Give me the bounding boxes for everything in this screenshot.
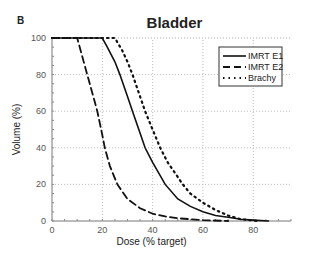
plot-area: 020406080100020406080Dose (% target)Volu…	[0, 0, 309, 258]
y-tick-label: 40	[36, 143, 46, 153]
x-tick-label: 60	[198, 225, 208, 235]
legend-label: Brachy	[248, 73, 277, 83]
y-tick-label: 0	[41, 216, 46, 226]
x-tick-label: 80	[248, 225, 258, 235]
y-tick-label: 100	[31, 33, 46, 43]
x-tick-label: 40	[148, 225, 158, 235]
x-tick-label: 20	[97, 225, 107, 235]
y-tick-label: 20	[36, 179, 46, 189]
x-axis-label: Dose (% target)	[116, 236, 186, 247]
y-axis-label: Volume (%)	[11, 104, 22, 156]
series-line-imrt-e2	[52, 38, 228, 221]
x-tick-label: 0	[49, 225, 54, 235]
y-tick-label: 80	[36, 70, 46, 80]
legend-label: IMRT E1	[248, 51, 283, 61]
y-tick-label: 60	[36, 106, 46, 116]
legend-label: IMRT E2	[248, 62, 283, 72]
chart-figure: B Bladder 020406080100020406080Dose (% t…	[0, 0, 309, 258]
